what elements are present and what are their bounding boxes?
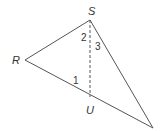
vertex-label-s: S [88, 5, 96, 17]
segment-r-t [25, 60, 153, 128]
vertex-label-u: U [86, 104, 94, 116]
angle-label-1: 1 [73, 75, 79, 86]
angle-label-2: 2 [81, 32, 87, 43]
angle-label-3: 3 [95, 41, 101, 52]
vertex-label-r: R [12, 54, 20, 66]
triangle-diagram: S R U 2 3 1 [0, 0, 165, 131]
